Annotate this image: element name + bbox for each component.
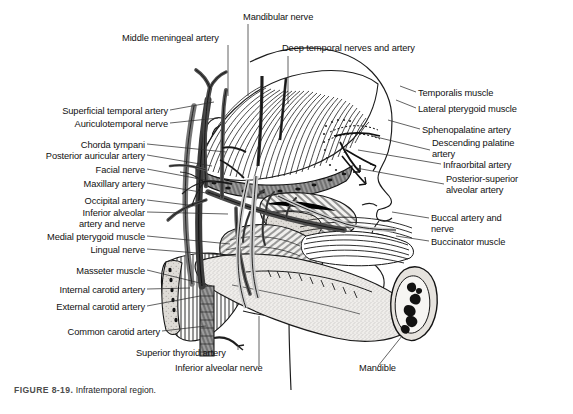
label-posterior-auricular-artery: Posterior auricular artery (46, 151, 145, 162)
label-medial-pterygoid-muscle: Medial pterygoid muscle (47, 232, 145, 243)
label-buccal-artery-and-nerve: Buccal artery and nerve (431, 213, 502, 234)
label-posterior-superior-alveolar-artery: Posterior-superior alveolar artery (446, 174, 518, 195)
label-superior-thyroid-artery: Superior thyroid artery (136, 348, 226, 359)
label-masseter-muscle: Masseter muscle (76, 266, 145, 277)
figure-panel: Mandibular nerve Middle meningeal artery… (0, 0, 573, 414)
label-mandibular-nerve: Mandibular nerve (243, 12, 313, 23)
label-infraorbital-artery: Infraorbital artery (443, 160, 511, 171)
figure-title: Infratemporal region. (76, 385, 156, 395)
label-occipital-artery: Occipital artery (85, 196, 145, 207)
label-middle-meningeal-artery: Middle meningeal artery (122, 33, 219, 44)
label-lingual-nerve: Lingual nerve (90, 245, 145, 256)
label-facial-nerve: Facial nerve (96, 165, 145, 176)
label-deep-temporal-nerves-and-artery: Deep temporal nerves and artery (282, 43, 415, 54)
label-superficial-temporal-artery: Superficial temporal artery (62, 106, 168, 117)
label-temporalis-muscle: Temporalis muscle (418, 88, 493, 99)
label-internal-carotid-artery: Internal carotid artery (59, 285, 145, 296)
infratemporal-region-illustration (0, 0, 573, 414)
label-inferior-alveolar-artery-and-nerve: Inferior alveolar artery and nerve (79, 208, 145, 229)
label-external-carotid-artery: External carotid artery (56, 302, 145, 313)
label-sphenopalatine-artery: Sphenopalatine artery (422, 125, 511, 136)
label-inferior-alveolar-nerve: Inferior alveolar nerve (175, 363, 263, 374)
figure-caption: FIGURE 8-19. Infratemporal region. (14, 385, 156, 395)
label-common-carotid-artery: Common carotid artery (68, 327, 160, 338)
label-auriculotemporal-nerve: Auriculotemporal nerve (75, 119, 168, 130)
mandible-shape (195, 254, 415, 341)
label-chorda-tympani: Chorda tympani (81, 140, 145, 151)
label-descending-palatine-artery: Descending palatine artery (432, 138, 514, 159)
label-maxillary-artery: Maxillary artery (84, 179, 145, 190)
label-lateral-pterygoid-muscle: Lateral pterygoid muscle (418, 104, 517, 115)
mandible-cross-section (391, 267, 437, 341)
figure-number: FIGURE 8-19. (14, 385, 73, 395)
label-mandible: Mandible (359, 363, 396, 374)
label-buccinator-muscle: Buccinator muscle (431, 237, 505, 248)
